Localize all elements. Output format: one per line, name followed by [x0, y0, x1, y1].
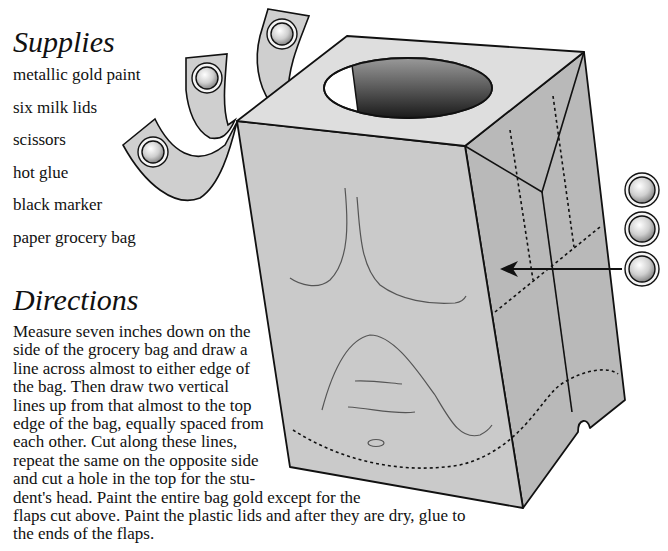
milk-lid-inner — [629, 177, 655, 203]
bag-costume-illustration — [0, 0, 668, 551]
head-hole — [324, 58, 492, 118]
milk-lid-inner — [142, 141, 164, 163]
milk-lid-inner — [629, 256, 655, 282]
milk-lid-inner — [629, 216, 655, 242]
milk-lid-inner — [271, 23, 293, 45]
lid-group-right — [625, 173, 659, 286]
milk-lid-inner — [196, 67, 218, 89]
